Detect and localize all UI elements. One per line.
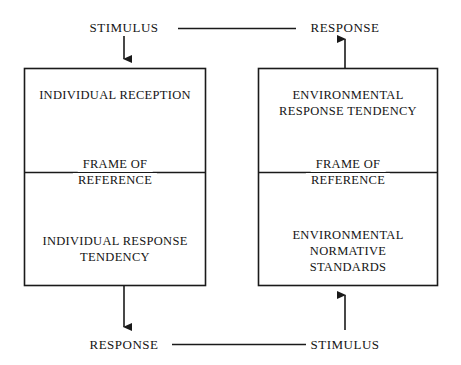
individual-response-tendency-line1: INDIVIDUAL RESPONSE <box>42 234 187 249</box>
environmental-response-tendency-line1: ENVIRONMENTAL <box>292 88 403 103</box>
top-right-response-label: RESPONSE <box>310 20 379 35</box>
environmental-normative-standards-line1: ENVIRONMENTAL <box>292 228 403 243</box>
individual-response-tendency-line2: TENDENCY <box>80 250 150 265</box>
diagram-canvas: STIMULUS RESPONSE INDIVIDUAL RECEPTION F… <box>0 0 461 365</box>
individual-reception-label: INDIVIDUAL RECEPTION <box>39 88 191 103</box>
environmental-normative-standards-line3: STANDARDS <box>310 260 387 275</box>
top-left-stimulus-label: STIMULUS <box>89 20 158 35</box>
environmental-normative-standards-line2: NORMATIVE <box>310 244 386 259</box>
environmental-response-tendency-line2: RESPONSE TENDENCY <box>279 104 417 119</box>
individual-frame-of-label: FRAME OF <box>78 157 153 172</box>
individual-reference-label: REFERENCE <box>73 173 157 188</box>
environmental-reference-label: REFERENCE <box>306 173 390 188</box>
bottom-left-response-label: RESPONSE <box>89 337 158 352</box>
diagram-strokes <box>0 0 461 365</box>
bottom-right-stimulus-label: STIMULUS <box>310 337 379 352</box>
environmental-frame-of-label: FRAME OF <box>311 157 386 172</box>
